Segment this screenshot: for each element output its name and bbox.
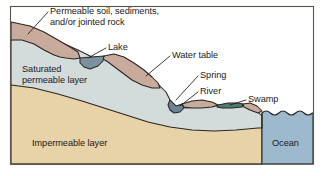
label-lake: Lake bbox=[108, 42, 128, 52]
groundwater-cross-section-figure: Permeable soil, sediments, and/or jointe… bbox=[0, 0, 324, 176]
label-swamp: Swamp bbox=[248, 94, 278, 104]
spring-leader bbox=[176, 76, 198, 100]
label-water-table: Water table bbox=[172, 50, 218, 60]
label-spring: Spring bbox=[200, 70, 226, 80]
label-permeable-soil-line1: Permeable soil, sediments, bbox=[50, 6, 159, 16]
label-permeable-soil-line2: and/or jointed rock bbox=[50, 17, 125, 27]
label-saturated-line2: permeable layer bbox=[22, 75, 87, 85]
label-ocean: Ocean bbox=[272, 138, 299, 148]
label-impermeable: Impermeable layer bbox=[32, 138, 107, 148]
water-table-leader bbox=[146, 56, 170, 76]
label-river: River bbox=[200, 86, 221, 96]
swamp-water bbox=[217, 103, 243, 108]
label-saturated-line1: Saturated bbox=[22, 64, 61, 74]
permeable-soil-layer-river-right bbox=[182, 100, 218, 108]
cross-section-diagram: Permeable soil, sediments, and/or jointe… bbox=[0, 0, 324, 176]
